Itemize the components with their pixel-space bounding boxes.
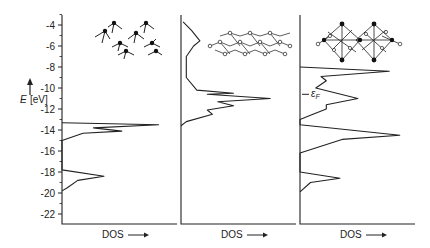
- y-tick-label: -6: [46, 41, 55, 52]
- right-arrow-icon: [263, 233, 268, 238]
- dos-curve: [62, 123, 159, 191]
- right-arrow-icon: [144, 233, 149, 238]
- y-axis-ticks: -4-6-8-10-12-14-16-18-20-22: [41, 15, 62, 220]
- panels: DOSDOSDOS: [62, 15, 415, 240]
- up-arrow-icon: [27, 78, 33, 85]
- y-tick-label: -8: [46, 62, 55, 73]
- y-tick: -20: [41, 188, 62, 199]
- y-tick: -10: [41, 83, 62, 94]
- y-tick-label: -16: [41, 146, 56, 157]
- y-tick: -22: [41, 209, 62, 220]
- y-label-E: E: [20, 94, 27, 105]
- right-arrow-icon: [382, 233, 387, 238]
- y-tick: -12: [41, 104, 62, 115]
- y-tick-label: -20: [41, 188, 56, 199]
- y-tick: -16: [41, 146, 62, 157]
- x-axis-label: DOS: [221, 229, 243, 240]
- fermi-label: εF: [311, 88, 320, 100]
- dos-panel-3: DOS: [300, 15, 415, 240]
- y-tick: -4: [46, 20, 62, 31]
- y-tick: -14: [41, 125, 62, 136]
- y-tick-label: -12: [41, 104, 56, 115]
- chain-structure-illustration: [208, 31, 292, 56]
- dos-curve: [300, 67, 400, 192]
- dos-panel-2: DOS: [181, 15, 296, 240]
- y-tick-label: -4: [46, 20, 55, 31]
- panel-axes: [181, 15, 296, 224]
- y-tick-label: -18: [41, 167, 56, 178]
- y-tick-label: -22: [41, 209, 56, 220]
- molecule-structure-illustration: [95, 21, 162, 59]
- panel-axes: [300, 15, 415, 224]
- y-tick: -6: [46, 41, 62, 52]
- fermi-level-annotation: εF: [302, 88, 320, 100]
- dos-figure: E [eV] -4-6-8-10-12-14-16-18-20-22 DOSDO…: [0, 0, 430, 248]
- x-axis-label: DOS: [340, 229, 362, 240]
- y-tick: -8: [46, 62, 62, 73]
- dos-curve: [181, 22, 270, 126]
- dos-panel-1: DOS: [62, 15, 177, 240]
- y-tick: -18: [41, 167, 62, 178]
- y-tick-label: -14: [41, 125, 56, 136]
- y-tick-label: -10: [41, 83, 56, 94]
- x-axis-label: DOS: [102, 229, 124, 240]
- octahedral-network-illustration: [316, 22, 402, 63]
